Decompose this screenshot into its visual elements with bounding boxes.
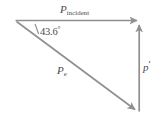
incident-symbol: P — [60, 3, 67, 15]
degree-symbol: ° — [58, 25, 61, 34]
prime-symbol: ′ — [149, 59, 151, 70]
angle-arc-marker — [35, 24, 38, 33]
label-scattered-momentum: p′ — [143, 60, 151, 73]
label-scattering-angle: 43.6° — [40, 26, 60, 38]
electron-subscript: e — [64, 70, 67, 77]
electron-momentum-vector — [17, 22, 136, 110]
label-electron-momentum: Pe — [57, 65, 67, 77]
vector-triangle-svg — [0, 0, 161, 125]
momentum-vector-diagram: Pincident 43.6° Pe p′ — [0, 0, 161, 125]
incident-subscript: incident — [67, 9, 90, 16]
angle-value: 43.6 — [40, 26, 58, 37]
label-incident-momentum: Pincident — [60, 4, 89, 16]
electron-symbol: P — [57, 64, 64, 76]
